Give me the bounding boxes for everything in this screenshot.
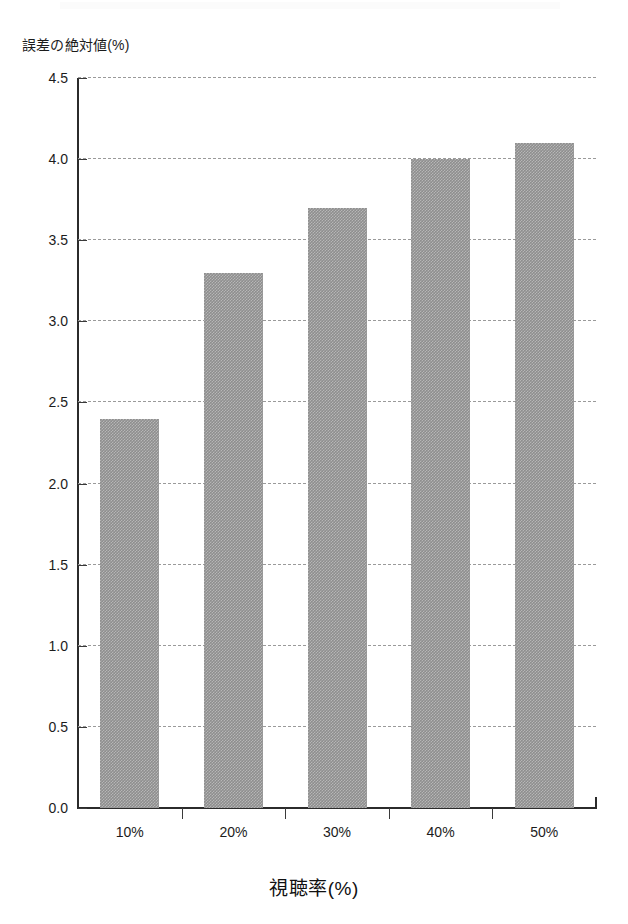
x-tick-mark: [389, 808, 390, 819]
x-axis-title: 視聴率(%): [0, 877, 628, 901]
bar-50%: [515, 143, 574, 808]
y-tick-label: 2.0: [16, 477, 68, 491]
y-tick-label: 4.5: [16, 71, 68, 85]
x-tick-label: 50%: [530, 824, 558, 840]
x-tick-mark: [492, 808, 493, 819]
x-tick-label: 20%: [219, 824, 247, 840]
scan-artifact-band: [60, 2, 560, 9]
bar-40%: [411, 159, 470, 808]
y-tick-label: 1.0: [16, 639, 68, 653]
bar-10%: [100, 419, 159, 808]
y-tick-label: 1.5: [16, 558, 68, 572]
bar-20%: [204, 273, 263, 808]
y-tick-label: 4.0: [16, 152, 68, 166]
y-tick-mark-0.0: [78, 808, 87, 809]
y-tick-label: 3.0: [16, 314, 68, 328]
y-tick-label: 0.0: [16, 801, 68, 815]
plot-area: [78, 78, 596, 808]
x-tick-mark: [182, 808, 183, 819]
y-tick-label: 2.5: [16, 395, 68, 409]
chart-figure: 誤差の絶対値(%) 0.00.51.01.52.02.53.03.54.04.5…: [0, 0, 628, 924]
bar-30%: [308, 208, 367, 808]
x-tick-label: 10%: [116, 824, 144, 840]
y-axis-title: 誤差の絶対値(%): [22, 36, 130, 54]
y-tick-label: 3.5: [16, 233, 68, 247]
y-tick-label: 0.5: [16, 720, 68, 734]
x-tick-mark: [285, 808, 286, 819]
x-tick-label: 40%: [427, 824, 455, 840]
x-tick-label: 30%: [323, 824, 351, 840]
